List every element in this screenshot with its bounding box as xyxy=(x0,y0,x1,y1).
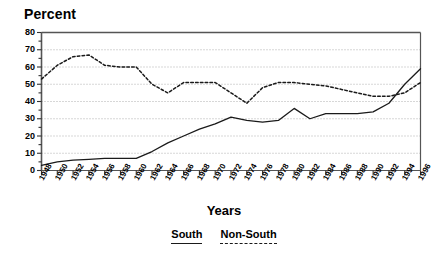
legend-swatch-dashed xyxy=(220,243,276,250)
y-tick-label-40: 40 xyxy=(13,97,35,106)
y-tick-label-0: 0 xyxy=(13,166,35,175)
legend-item-south[interactable]: South xyxy=(171,228,202,250)
y-tick-label-20: 20 xyxy=(13,132,35,141)
y-tick-label-80: 80 xyxy=(13,28,35,37)
legend-swatch-solid xyxy=(171,243,202,250)
legend-item-non-south[interactable]: Non-South xyxy=(220,228,276,250)
plot-area: 80706050403020100 1948195019521954195619… xyxy=(0,0,448,263)
y-tick-label-10: 10 xyxy=(13,149,35,158)
y-tick-label-50: 50 xyxy=(13,80,35,89)
series-line-non-south xyxy=(42,55,421,103)
y-tick-label-30: 30 xyxy=(13,114,35,123)
legend-label: Non-South xyxy=(220,228,276,241)
y-tick-label-60: 60 xyxy=(13,63,35,72)
data-series-group xyxy=(42,55,421,165)
x-axis-title: Years xyxy=(0,203,448,218)
series-line-south xyxy=(42,69,421,166)
gridlines xyxy=(42,50,421,154)
legend-label: South xyxy=(171,228,202,241)
chart-legend: SouthNon-South xyxy=(0,228,448,250)
y-tick-label-70: 70 xyxy=(13,45,35,54)
chart-canvas xyxy=(0,0,448,263)
chart-figure: Percent 80706050403020100 19481950195219… xyxy=(0,0,448,263)
